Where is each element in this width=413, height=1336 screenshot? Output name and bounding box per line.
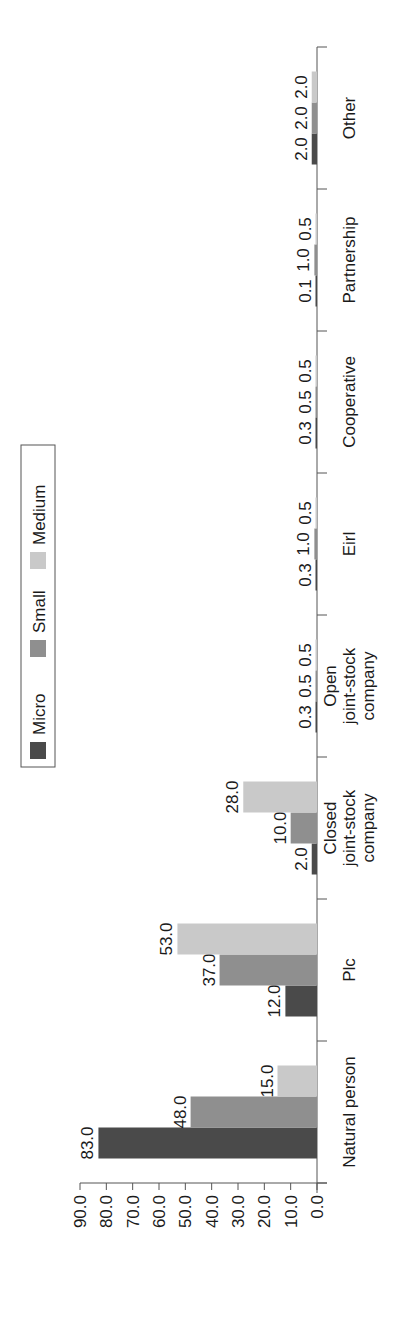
category-label: Plc	[340, 958, 359, 982]
data-label: 28.0	[223, 780, 242, 813]
bar-medium	[316, 214, 318, 245]
bar-medium	[278, 1066, 318, 1097]
value-tick-label: 60.0	[150, 1195, 169, 1228]
value-tick-label: 40.0	[203, 1195, 222, 1228]
value-tick-label: 20.0	[255, 1195, 274, 1228]
bar-medium	[316, 356, 318, 387]
category-label: company	[359, 651, 378, 720]
data-label: 1.0	[294, 532, 313, 556]
data-label: 0.3	[296, 421, 315, 445]
bar-small	[316, 387, 318, 418]
category-label: Eirl	[340, 532, 359, 557]
category-group: 0.30.50.5Openjoint-stockcompany	[296, 640, 379, 733]
legend-swatch	[30, 742, 46, 759]
bar-small	[220, 955, 317, 986]
category-group: 2.010.028.0Closedjoint-stockcompany	[223, 780, 378, 874]
bar-medium	[316, 498, 318, 529]
data-label: 37.0	[200, 953, 219, 986]
bar-medium	[312, 72, 317, 103]
legend-label: Medium	[30, 485, 49, 545]
bar-small	[316, 671, 318, 702]
legend-swatch	[30, 640, 46, 657]
bar-medium	[316, 640, 318, 671]
bar-micro	[316, 702, 318, 733]
data-label: 0.5	[296, 674, 315, 698]
value-tick-label: 30.0	[229, 1195, 248, 1228]
bar-micro	[316, 276, 318, 307]
category-label: joint-stock	[340, 647, 359, 725]
data-label: 0.5	[296, 390, 315, 414]
bar-micro	[316, 418, 318, 449]
plot-area: 0.010.020.030.040.050.060.070.080.090.08…	[71, 47, 378, 1228]
data-label: 1.0	[294, 248, 313, 272]
legend: MicroSmallMedium	[21, 445, 55, 767]
value-tick-label: 50.0	[176, 1195, 195, 1228]
legend-label: Micro	[30, 693, 49, 735]
data-label: 2.0	[292, 847, 311, 871]
category-label: Partnership	[340, 217, 359, 304]
data-label: 0.1	[296, 279, 315, 303]
data-label: 15.0	[258, 1064, 277, 1097]
category-group: 12.037.053.0Plc	[157, 922, 359, 1017]
category-group: 83.048.015.0Natural person	[78, 1056, 359, 1168]
bar-small	[312, 103, 317, 134]
bar-small	[191, 1097, 317, 1128]
data-label: 10.0	[271, 811, 290, 844]
bar-micro	[98, 1128, 317, 1159]
value-tick-label: 10.0	[282, 1195, 301, 1228]
legend-label: Small	[30, 590, 49, 633]
data-label: 0.5	[296, 643, 315, 667]
category-label: Open	[321, 665, 340, 707]
category-group: 0.30.50.5Cooperative	[296, 356, 360, 449]
value-tick-label: 80.0	[97, 1195, 116, 1228]
value-tick-label: 90.0	[71, 1195, 90, 1228]
bar-medium	[177, 924, 317, 955]
bar-small	[291, 813, 317, 844]
data-label: 0.5	[296, 217, 315, 241]
value-tick-label: 70.0	[124, 1195, 143, 1228]
category-label: Natural person	[340, 1056, 359, 1168]
legend-swatch	[30, 552, 46, 569]
category-label: company	[359, 793, 378, 862]
bar-micro	[312, 134, 317, 165]
data-label: 48.0	[171, 1095, 190, 1128]
category-group: 2.02.02.0Other	[292, 72, 359, 165]
data-label: 53.0	[157, 922, 176, 955]
data-label: 2.0	[292, 75, 311, 99]
bar-medium	[243, 782, 317, 813]
data-label: 2.0	[292, 106, 311, 130]
bar-small	[314, 245, 317, 276]
bar-micro	[285, 986, 317, 1017]
data-label: 2.0	[292, 137, 311, 161]
category-group: 0.11.00.5Partnership	[294, 214, 359, 307]
category-label: Cooperative	[340, 356, 359, 448]
data-label: 12.0	[265, 984, 284, 1017]
data-label: 0.5	[296, 359, 315, 383]
bar-micro	[316, 560, 318, 591]
category-label: joint-stock	[340, 789, 359, 867]
data-label: 0.5	[296, 501, 315, 525]
bar-micro	[312, 844, 317, 875]
bar-small	[314, 529, 317, 560]
data-label: 0.3	[296, 705, 315, 729]
bar-chart: 0.010.020.030.040.050.060.070.080.090.08…	[0, 0, 413, 1336]
value-tick-label: 0.0	[308, 1195, 327, 1219]
category-label: Closed	[321, 802, 340, 855]
data-label: 83.0	[78, 1126, 97, 1159]
category-group: 0.31.00.5Eirl	[294, 498, 359, 591]
category-label: Other	[340, 96, 359, 139]
data-label: 0.3	[296, 563, 315, 587]
